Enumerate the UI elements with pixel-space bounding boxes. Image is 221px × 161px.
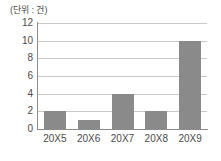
y-axis-tick-label: 12 [3,18,33,28]
plot-area [38,23,207,129]
y-axis-line [37,22,38,130]
bar [145,111,167,129]
x-axis-tick-labels: 20X520X620X720X820X9 [38,133,207,149]
x-axis-tick-label: 20X9 [173,133,207,145]
y-axis-tick-label: 10 [3,36,33,46]
gridline [38,23,207,24]
bar [179,41,201,129]
y-axis-tick-label: 6 [3,71,33,81]
bar [44,111,66,129]
x-axis-tick-label: 20X6 [72,133,106,145]
bar [78,120,100,129]
bar [112,94,134,129]
x-axis-line [37,129,208,130]
bar-chart-figure: (단위 : 건) 121086420 20X520X620X720X820X9 [0,0,221,161]
x-axis-tick-label: 20X5 [38,133,72,145]
y-axis-tick-label: 0 [3,124,33,134]
unit-label: (단위 : 건) [10,3,48,16]
y-axis-tick-label: 8 [3,53,33,63]
y-axis-tick-label: 2 [3,106,33,116]
x-axis-tick-label: 20X8 [139,133,173,145]
y-axis-tick-labels: 121086420 [0,23,33,129]
y-axis-tick-label: 4 [3,89,33,99]
x-axis-tick-label: 20X7 [106,133,140,145]
